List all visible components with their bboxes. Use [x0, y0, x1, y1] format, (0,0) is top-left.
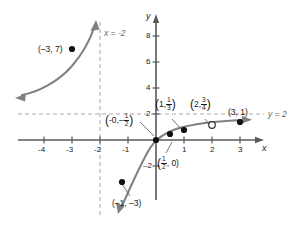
x-tick-neg1: -1: [122, 146, 129, 154]
point-label-1-third: (1, 13): [155, 97, 176, 112]
point-neg3-7: [69, 46, 75, 52]
point-3-1: [237, 119, 243, 125]
point-1-third: [181, 127, 187, 133]
x-tick-neg3: -3: [66, 146, 73, 154]
paren-open: (: [190, 98, 194, 110]
point-label-0-neg-half: (-0, –12): [105, 113, 133, 128]
x-tick-3: 3: [238, 146, 242, 154]
point-label-2-three-quarters: (2, 34): [190, 97, 211, 112]
y-tick-neg2: –2: [143, 162, 152, 170]
paren-open: (: [105, 114, 109, 126]
point-half-0: [167, 131, 173, 137]
y-axis-arrow: [153, 14, 159, 23]
y-tick-8: 8: [146, 32, 150, 40]
curve-left-branch: [22, 28, 94, 95]
y-tick-6: 6: [146, 58, 150, 66]
x-tick-neg2: -2: [94, 146, 101, 154]
x-tick-1: 1: [182, 146, 186, 154]
horizontal-asymptote-label: y = 2: [268, 110, 287, 119]
fraction-one-half: 12: [161, 156, 167, 171]
paren-close: ): [207, 98, 211, 110]
point-label-3-1: (3, 1): [228, 108, 248, 117]
curve-left-branch-arrow-up: [91, 20, 100, 31]
x-axis-label: x: [262, 144, 267, 153]
point-neg1-neg3: [119, 179, 125, 185]
label-tail: , 0): [167, 159, 179, 168]
point-label-neg3-7: (–3, 7): [38, 45, 63, 54]
paren-close: ): [129, 114, 133, 126]
point-2-three-quarters: [209, 122, 216, 129]
paren-open: (: [155, 98, 159, 110]
paren-close: ): [172, 98, 176, 110]
x-tick-neg4: -4: [38, 146, 45, 154]
vertical-asymptote-label: x = -2: [104, 29, 126, 38]
y-tick-2: 2: [146, 110, 150, 118]
point-0-neg-half: [153, 137, 159, 143]
y-tick-4: 4: [146, 84, 150, 92]
curve-left-branch-arrow-down: [15, 94, 26, 102]
point-label-neg1-neg3: (–1, –3): [112, 199, 141, 208]
point-label-half-0: (12, 0): [157, 156, 179, 171]
x-tick-2: 2: [210, 146, 214, 154]
y-axis-label: y: [146, 12, 151, 21]
